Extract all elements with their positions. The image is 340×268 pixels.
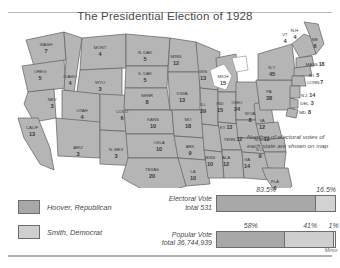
state-name: DEL. <box>300 101 309 106</box>
state-label: IND15 <box>216 102 223 113</box>
state-electoral-votes: 12 <box>171 59 182 65</box>
state-electoral-votes: 3 <box>95 85 105 91</box>
state-label: W.VA8 <box>245 112 255 123</box>
minor-party-note: Minor <box>325 247 338 253</box>
state-label: WYO3 <box>95 81 105 92</box>
state-electoral-votes: 8 <box>141 98 153 104</box>
bar-caption-line1: Popular Vote <box>172 231 212 238</box>
state-label: TEXAS20 <box>145 168 159 179</box>
bottom-divider <box>8 255 332 257</box>
legend-label: Smith, Democrat <box>47 228 102 237</box>
bar-track <box>216 231 336 248</box>
state-electoral-votes: 4 <box>282 37 287 43</box>
state-label: COLO6 <box>116 110 128 121</box>
state-electoral-votes: 8 <box>245 116 255 122</box>
legend-label: Hoover, Republican <box>47 203 112 212</box>
election-map-figure: The Presidential Election of 1928 <box>0 0 340 268</box>
vote-bar: 58%41%1%Popular Votetotal 36,744,939Mino… <box>150 222 336 255</box>
state-label: NEV3 <box>48 98 57 109</box>
state-label: IDAHO4 <box>63 75 76 86</box>
state-label: OHIO24 <box>232 101 243 112</box>
bar-caption: Electoral Votetotal 531 <box>150 195 216 213</box>
state-electoral-votes: 14 <box>309 92 315 98</box>
bar-percent-labels: 83.5%16.5% <box>216 186 336 195</box>
state-name: R.I. <box>309 73 315 78</box>
state-electoral-votes: 5 <box>138 76 152 82</box>
state-label: ARIZ3 <box>73 146 83 157</box>
bar-caption-line2: total 531 <box>150 204 212 213</box>
state-electoral-votes: 38 <box>266 94 272 100</box>
bar-percent-label: 58% <box>244 222 258 229</box>
state-electoral-votes: 14 <box>244 162 250 168</box>
state-electoral-votes: 18 <box>319 61 325 67</box>
state-name: MASS <box>306 62 318 67</box>
state-label: OREG5 <box>34 70 47 81</box>
state-electoral-votes: 3 <box>109 152 124 158</box>
state-label: OKLA10 <box>153 141 164 152</box>
state-name: MD. <box>299 110 307 115</box>
bar-percent-label: 1% <box>329 222 339 229</box>
state-electoral-votes: 7 <box>40 47 53 53</box>
state-electoral-votes: 12 <box>236 136 242 142</box>
state-label: MICH15 <box>218 75 229 86</box>
vote-bar: 83.5%16.5%Electoral Votetotal 531 <box>150 186 336 213</box>
bar-percent-label: 83.5% <box>256 186 276 193</box>
state-electoral-votes: 13 <box>226 124 232 130</box>
bar-track <box>216 195 336 212</box>
state-electoral-votes: 8 <box>308 109 311 115</box>
state-electoral-votes: 10 <box>190 174 196 180</box>
bar-caption: Popular Votetotal 36,744,939 <box>150 231 216 249</box>
state-label: ME6 <box>312 38 318 49</box>
state-label: ARK9 <box>186 145 195 156</box>
bar-row: Electoral Votetotal 531 <box>150 195 336 213</box>
state-electoral-votes: 12 <box>259 123 265 129</box>
state-electoral-votes: 13 <box>26 130 38 136</box>
state-name: CONN <box>307 80 320 85</box>
legend-item: Hoover, Republican <box>18 200 148 214</box>
bar-segment <box>333 232 335 247</box>
bar-caption-line1: Electoral Vote <box>169 195 212 202</box>
state-electoral-votes: 5 <box>138 55 152 61</box>
state-label: WIS13 <box>199 70 207 81</box>
map-annotation: Number of electoral votes of each state … <box>247 133 333 151</box>
state-electoral-votes: 5 <box>316 72 319 78</box>
state-electoral-votes: 4 <box>94 50 107 56</box>
state-electoral-votes: 9 <box>256 152 264 158</box>
state-electoral-votes: 29 <box>200 107 206 113</box>
us-map: WASH7OREG5IDAHO4MONT4WYO3NEV3UTAH4CALIF1… <box>4 18 336 188</box>
state-electoral-votes: 3 <box>73 150 83 156</box>
vote-bar-charts: 83.5%16.5%Electoral Votetotal 53158%41%1… <box>150 186 336 263</box>
legend-item: Smith, Democrat <box>18 225 148 239</box>
state-label: DEL.3 <box>300 101 313 107</box>
state-label: S. DAK5 <box>138 72 152 83</box>
state-label: WASH7 <box>40 43 53 54</box>
state-label: VA12 <box>259 119 265 130</box>
state-electoral-votes: 4 <box>63 79 76 85</box>
state-label: N.Y.45 <box>268 66 276 77</box>
state-electoral-votes: 12 <box>222 160 230 166</box>
state-name: KY <box>220 125 226 130</box>
state-name: TENN <box>224 137 236 142</box>
state-electoral-votes: 10 <box>147 122 159 128</box>
bar-segment <box>217 232 284 247</box>
bar-segment <box>315 196 335 211</box>
state-label: PA38 <box>266 90 272 101</box>
state-electoral-votes: 7 <box>320 79 323 85</box>
state-label: MD.8 <box>299 110 311 116</box>
state-electoral-votes: 6 <box>116 114 128 120</box>
state-electoral-votes: 24 <box>232 105 243 111</box>
state-label: N. DAK5 <box>138 51 152 62</box>
legend-swatch <box>18 200 40 214</box>
state-label: UTAH4 <box>76 109 87 120</box>
state-label: MO18 <box>185 118 192 129</box>
state-label: N.J.14 <box>301 93 315 99</box>
state-electoral-votes: 3 <box>311 100 314 106</box>
state-label: KANS10 <box>147 118 159 129</box>
state-label: MISS10 <box>205 156 215 167</box>
state-label: N. MEX3 <box>109 148 124 159</box>
state-label: MASS18 <box>306 62 325 68</box>
state-label: CONN7 <box>307 80 323 86</box>
state-label: ALA12 <box>222 156 230 167</box>
state-label: MONT4 <box>94 46 107 57</box>
state-label: VT4 <box>282 33 287 44</box>
